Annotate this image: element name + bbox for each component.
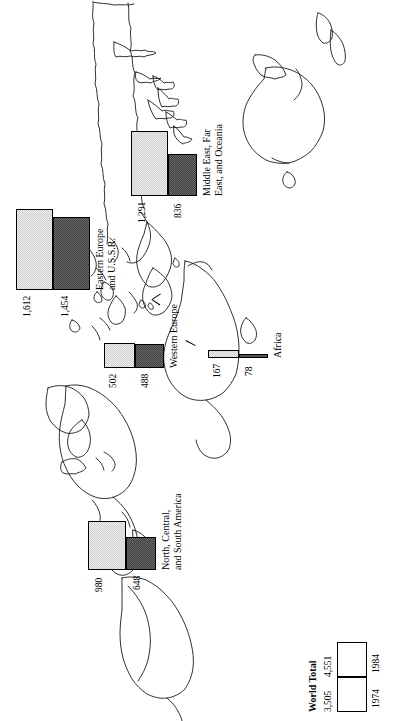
legend-value-1984: 4,551 (323, 656, 333, 677)
label-africa-line1: Africa (272, 332, 284, 358)
bar-africa-1984[interactable] (208, 350, 239, 358)
legend-year-1984: 1984 (371, 654, 381, 673)
bars-western-europe (104, 78, 164, 368)
bar-americas-1984[interactable] (88, 521, 126, 570)
bar-eastern-europe-ussr-1974[interactable] (53, 217, 90, 290)
legend-swatch-1984[interactable] (337, 642, 367, 677)
region-group-africa: 167 78 Africa (208, 68, 298, 358)
region-group-eastern-europe-ussr: 1,612 1,454 Eastern Europe and U.S.S.R. (16, 0, 106, 290)
bar-western-europe-1984[interactable] (104, 343, 135, 368)
legend-year-1974: 1974 (371, 689, 381, 708)
legend-swatch-1974[interactable] (337, 677, 367, 712)
value-americas-1974: 648 (132, 576, 142, 590)
region-bars-layer: 1,612 1,454 Eastern Europe and U.S.S.R. … (0, 0, 398, 721)
bars-africa (208, 68, 268, 358)
value-eastern-europe-ussr-1974: 1,454 (60, 296, 70, 317)
value-africa-1984: 167 (212, 364, 222, 378)
value-eastern-europe-ussr-1984: 1,612 (22, 296, 32, 317)
bar-eastern-europe-ussr-1984[interactable] (16, 209, 53, 290)
bar-africa-1974[interactable] (239, 354, 268, 358)
value-americas-1984: 980 (94, 578, 104, 592)
label-western-europe-line1: Western Europe (168, 304, 180, 368)
legend-title: World Total (307, 661, 318, 712)
value-africa-1974: 78 (244, 367, 254, 377)
value-western-europe-1984: 502 (108, 374, 118, 388)
label-americas-line2: and South America (172, 493, 184, 570)
value-western-europe-1974: 488 (140, 374, 150, 388)
region-group-western-europe: 502 488 Western Europe (104, 78, 194, 368)
bar-western-europe-1974[interactable] (135, 344, 164, 368)
legend: World Total 3,505 4,551 1974 1984 (307, 602, 398, 712)
bars-eastern-europe-ussr (16, 0, 90, 290)
bar-americas-1974[interactable] (126, 537, 156, 570)
label-americas-line1: North, Central, (160, 510, 172, 570)
legend-swatches (337, 642, 367, 712)
legend-value-1974: 3,505 (323, 691, 333, 712)
chart-canvas: 1,612 1,454 Eastern Europe and U.S.S.R. … (0, 0, 398, 721)
